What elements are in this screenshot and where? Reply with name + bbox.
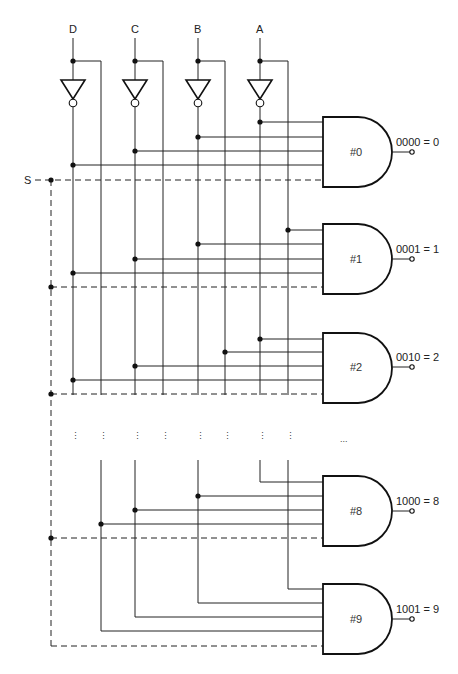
output-label-0: 0000 = 0 [396,137,439,148]
continuation-dots: ⋮ [196,432,205,441]
output-label-9: 1001 = 9 [396,604,439,615]
gate-label-0: #0 [350,147,362,158]
continuation-dots: ⋮ [71,432,80,441]
gate-0-inputs [70,119,323,167]
continuation-dots: ⋮ [258,432,267,441]
gate-ellipsis: ... [340,435,348,444]
gate-label-8: #8 [350,506,362,517]
input-label-b: B [194,24,201,35]
inverters [61,80,272,107]
continuation-dots: ⋮ [286,432,295,441]
circuit-wiring [0,0,458,674]
output-label-8: 1000 = 8 [396,496,439,507]
decoder-diagram: D C B A S #0 #1 #2 #8 #9 0000 = 0 0001 =… [0,0,458,674]
lower-lines [98,460,323,631]
gate-2-inputs [70,336,323,382]
gate-label-2: #2 [350,362,362,373]
continuation-dots: ⋮ [223,432,232,441]
continuation-dots: ⋮ [161,432,170,441]
strobe-line [35,177,323,646]
outputs [392,150,414,621]
input-label-c: C [131,24,139,35]
inverter-a-icon [248,80,272,99]
continuation-dots: ⋮ [133,432,142,441]
input-label-d: D [69,24,77,35]
output-label-2: 0010 = 2 [396,352,439,363]
strobe-label: S [24,175,31,186]
gate-1-inputs [70,227,323,275]
input-label-a: A [256,24,263,35]
inverter-d-icon [61,80,85,99]
gate-label-1: #1 [350,254,362,265]
output-label-1: 0001 = 1 [396,244,439,255]
inverter-c-icon [123,80,147,99]
continuation-dots: ⋮ [99,432,108,441]
and-gates [323,117,392,654]
inverter-b-icon [186,80,210,99]
gate-label-9: #9 [350,614,362,625]
